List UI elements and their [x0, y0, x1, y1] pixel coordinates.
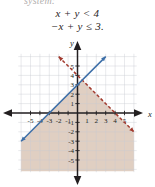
x-axis-label: x: [147, 109, 152, 119]
y-tick-label: 4: [71, 72, 75, 80]
x-tick-label: 3: [104, 117, 108, 125]
x-tick-label: -5: [28, 117, 34, 125]
y-axis-label: y: [69, 38, 74, 48]
y-tick-label: -4: [68, 147, 74, 155]
coordinate-plane-graph: -5-4-3-2-11234554321-1-2-3-4-5 x y: [0, 36, 155, 187]
y-tick-label: 1: [71, 100, 75, 108]
x-tick-label: 2: [95, 117, 99, 125]
inequality-2: −x + y ≤ 3.: [0, 20, 155, 32]
x-tick-label: 5: [123, 117, 127, 125]
figure-heading: system:: [24, 0, 55, 6]
graph-svg: -5-4-3-2-11234554321-1-2-3-4-5 x y: [0, 36, 155, 187]
x-tick-label: -2: [56, 117, 62, 125]
y-tick-label: -2: [68, 128, 74, 136]
x-tick-label: 1: [85, 117, 89, 125]
y-tick-label: -5: [68, 157, 74, 165]
x-tick-label: 4: [113, 117, 117, 125]
inequality-1: x + y < 4: [0, 7, 155, 19]
y-tick-label: -1: [68, 119, 74, 127]
y-tick-label: -3: [68, 138, 74, 146]
x-tick-label: -3: [46, 117, 52, 125]
figure-container: system: x + y < 4 −x + y ≤ 3. -5-4-3-2-1…: [0, 0, 155, 187]
